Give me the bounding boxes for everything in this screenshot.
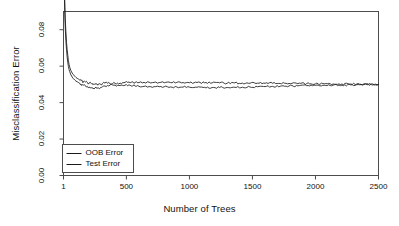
legend-item-label: Test Error [86, 159, 121, 168]
x-tick-label: 2000 [295, 182, 335, 191]
x-axis-title: Number of Trees [0, 203, 399, 214]
plot-canvas [0, 0, 399, 226]
chart-figure: Misclassification Error Number of Trees … [0, 0, 399, 226]
y-tick-label: 0.04 [36, 87, 45, 117]
y-tick-label: 0.08 [36, 14, 45, 44]
y-tick-label: 0.02 [36, 124, 45, 154]
series-line-oob-error [64, 0, 379, 85]
y-tick-label: 0.06 [36, 51, 45, 81]
y-axis-title-wrap: Misclassification Error [0, 0, 30, 186]
legend-item-label: OOB Error [86, 148, 124, 157]
x-tick-label: 2500 [359, 182, 399, 191]
series-line-test-error [64, 0, 379, 89]
x-tick-label: 500 [106, 182, 146, 191]
x-tick-label: 1500 [232, 182, 272, 191]
y-axis-title: Misclassification Error [10, 46, 21, 141]
data-series-lines [64, 0, 379, 89]
x-tick-label: 1000 [169, 182, 209, 191]
x-tick-label: 1 [44, 182, 84, 191]
